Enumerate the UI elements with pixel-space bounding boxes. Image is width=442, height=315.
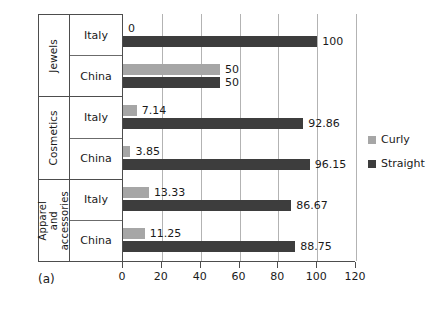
bar-straight [123,77,220,88]
bar-rows: 0 100 50 50 7. [123,14,355,261]
bar-straight [123,118,303,129]
chart-container: Jewels Italy China Cosmetics Italy China… [0,0,442,315]
legend-swatch-icon [368,136,376,144]
bar-line-curly: 50 [123,64,355,75]
x-axis-tick-label: 120 [345,270,366,283]
bar-value-straight: 100 [322,35,343,48]
gridline [356,14,357,261]
country-label-cosmetics-china: China [70,139,122,179]
bar-row-cosmetics-china: 3.85 96.15 [123,138,355,179]
legend: Curly Straight [368,133,425,170]
bar-curly [123,64,220,75]
group-label-apparel: Apparel and accessories [39,180,69,261]
country-column: Italy China [69,180,122,261]
x-axis-tick-label: 20 [154,270,168,283]
country-label-apparel-italy: Italy [70,180,122,221]
bar-line-straight: 96.15 [123,159,355,170]
bar-value-straight: 50 [225,76,239,89]
bar-row-cosmetics-italy: 7.14 92.86 [123,96,355,137]
country-column: Italy China [69,15,122,96]
bar-row-apparel-italy: 13.33 86.67 [123,179,355,220]
bar-line-straight: 86.67 [123,200,355,211]
bar-row-jewels-china: 50 50 [123,55,355,96]
bar-value-curly: 11.25 [150,227,182,240]
x-axis-tick-label: 40 [193,270,207,283]
group-label-cosmetics: Cosmetics [39,97,69,178]
x-axis-tick-label: 60 [232,270,246,283]
country-label-cosmetics-italy: Italy [70,97,122,138]
x-axis-tick-label: 100 [306,270,327,283]
group-block-cosmetics: Cosmetics Italy China [39,97,122,179]
x-axis-tick [277,262,278,268]
x-axis-tick [122,262,123,268]
bar-value-curly: 3.85 [135,145,160,158]
bar-straight [123,159,310,170]
bar-value-straight: 96.15 [315,158,347,171]
bar-value-straight: 88.75 [300,240,332,253]
bar-straight [123,241,295,252]
legend-swatch-icon [368,160,376,168]
bar-value-curly: 7.14 [142,104,167,117]
x-axis-tick [161,262,162,268]
x-axis-tick [355,262,356,268]
bar-line-curly: 0 [123,23,355,34]
bar-line-curly: 11.25 [123,228,355,239]
x-axis-tick-label: 80 [270,270,284,283]
group-label-text: Apparel and accessories [37,191,71,250]
x-axis-tick [316,262,317,268]
x-axis-tick-label: 0 [119,270,126,283]
bar-value-straight: 86.67 [296,199,328,212]
bar-curly [123,105,137,116]
bar-line-straight: 92.86 [123,118,355,129]
x-axis-tick [239,262,240,268]
bar-line-curly: 13.33 [123,187,355,198]
bar-value-curly: 13.33 [154,186,186,199]
country-label-apparel-china: China [70,221,122,261]
group-label-text: Cosmetics [48,110,60,165]
legend-label: Curly [381,133,410,146]
bar-value-curly: 0 [128,22,135,35]
country-label-jewels-china: China [70,56,122,96]
bar-line-straight: 50 [123,77,355,88]
legend-item-curly[interactable]: Curly [368,133,425,146]
x-axis-tick [200,262,201,268]
group-label-jewels: Jewels [39,15,69,96]
bar-straight [123,200,291,211]
bar-straight [123,36,317,47]
bar-row-jewels-italy: 0 100 [123,14,355,55]
group-label-text: Jewels [48,39,60,73]
bar-line-straight: 88.75 [123,241,355,252]
bar-line-straight: 100 [123,36,355,47]
bar-row-apparel-china: 11.25 88.75 [123,220,355,261]
legend-label: Straight [381,157,425,170]
bar-curly [123,187,149,198]
bar-curly [123,228,145,239]
country-label-jewels-italy: Italy [70,15,122,56]
x-axis: 020406080100120 [122,262,355,292]
group-block-apparel: Apparel and accessories Italy China [39,180,122,261]
category-axis-box: Jewels Italy China Cosmetics Italy China… [38,14,122,262]
bar-value-straight: 92.86 [308,117,340,130]
country-column: Italy China [69,97,122,178]
figure-caption: (a) [38,272,55,286]
bar-curly [123,146,130,157]
group-block-jewels: Jewels Italy China [39,15,122,97]
legend-item-straight[interactable]: Straight [368,157,425,170]
plot-area: 0 100 50 50 7. [122,14,355,262]
bar-line-curly: 3.85 [123,146,355,157]
bar-value-curly: 50 [225,63,239,76]
bar-line-curly: 7.14 [123,105,355,116]
